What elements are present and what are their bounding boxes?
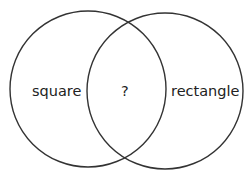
square-label: square — [32, 84, 81, 99]
intersection-label: ? — [121, 84, 129, 99]
rectangle-label: rectangle — [171, 84, 239, 99]
